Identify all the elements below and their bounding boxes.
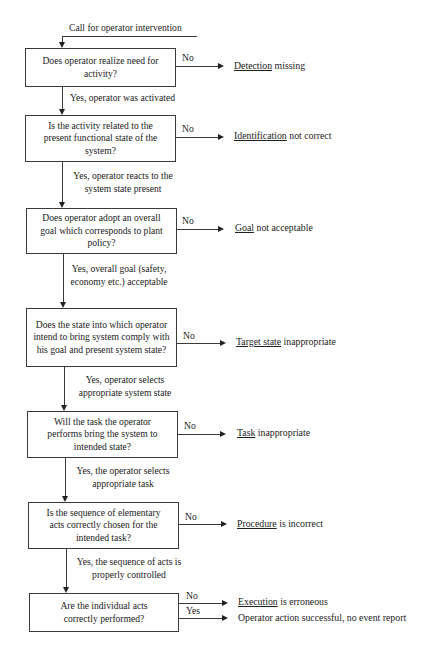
no-label: No xyxy=(182,215,194,228)
decision-box-target-state: Does the state into which operator inten… xyxy=(26,308,177,367)
no-connector xyxy=(179,603,222,604)
yes-label: Yes, operator reacts to the system state… xyxy=(68,170,178,195)
decision-box-detection: Does operator realize need for activity? xyxy=(25,48,176,87)
outcome-key: Identification xyxy=(234,130,287,141)
yes-label: Yes, operator was activated xyxy=(70,92,175,105)
outcome-detection: Detection missing xyxy=(234,60,305,72)
outcome-identification: Identification not correct xyxy=(234,130,331,142)
no-connector xyxy=(179,524,221,525)
arrow-right-icon xyxy=(218,63,224,69)
outcome-task: Task inappropriate xyxy=(237,427,310,439)
no-connector xyxy=(177,343,220,344)
no-label: No xyxy=(186,590,198,603)
outcome-key: Task xyxy=(237,427,255,438)
outcome-key: Procedure xyxy=(237,518,277,529)
yes-connector xyxy=(62,162,63,202)
decision-question: Does operator adopt an overall goal whic… xyxy=(34,212,170,250)
outcome-procedure: Procedure is incorrect xyxy=(237,518,323,530)
arrow-right-icon xyxy=(221,521,227,527)
decision-box-procedure: Is the sequence of elementary acts corre… xyxy=(28,502,179,549)
outcome-rest: not acceptable xyxy=(254,222,313,233)
outcome-key: Goal xyxy=(235,222,254,233)
yes-connector xyxy=(179,618,222,619)
decision-question: Will the task the operator performs brin… xyxy=(37,416,169,454)
start-label: Call for operator intervention xyxy=(69,22,182,35)
outcome-success: Operator action successful, no event rep… xyxy=(238,612,406,624)
no-label: No xyxy=(184,420,196,433)
decision-box-identification: Is the activity related to the present f… xyxy=(25,115,176,162)
outcome-rest: missing xyxy=(272,60,305,71)
outcome-rest: not correct xyxy=(287,130,332,141)
arrow-right-icon xyxy=(218,134,224,140)
outcome-target-state: Target state inappropriate xyxy=(236,336,336,348)
outcome-key: Execution xyxy=(238,596,278,607)
yes-label: Yes, the sequence of acts is properly co… xyxy=(72,556,186,581)
arrow-right-icon xyxy=(220,340,226,346)
outcome-goal: Goal not acceptable xyxy=(235,222,313,234)
arrow-right-icon xyxy=(220,431,226,437)
yes-label: Yes xyxy=(186,605,200,618)
no-connector xyxy=(176,66,218,67)
outcome-key: Detection xyxy=(234,60,272,71)
yes-connector xyxy=(66,549,67,587)
no-label: No xyxy=(185,511,197,524)
outcome-rest: is erroneous xyxy=(278,596,328,607)
outcome-rest: inappropriate xyxy=(281,336,336,347)
decision-question: Is the activity related to the present f… xyxy=(39,120,163,158)
arrow-right-icon xyxy=(222,600,228,606)
no-label: No xyxy=(183,330,195,343)
outcome-rest: is incorrect xyxy=(277,518,323,529)
decision-question: Are the individual acts correctly perfor… xyxy=(54,600,154,625)
arrow-right-icon xyxy=(222,615,228,621)
arrow-right-icon xyxy=(218,226,224,232)
yes-connector xyxy=(65,458,66,496)
decision-box-task: Will the task the operator performs brin… xyxy=(27,411,178,458)
start-connector xyxy=(62,36,197,37)
decision-question: Does operator realize need for activity? xyxy=(42,55,160,80)
no-connector xyxy=(176,137,218,138)
decision-question: Is the sequence of elementary acts corre… xyxy=(39,507,169,545)
yes-connector xyxy=(62,87,63,109)
no-label: No xyxy=(182,123,194,136)
yes-connector xyxy=(63,254,64,302)
yes-connector xyxy=(64,367,65,405)
decision-question: Does the state into which operator inten… xyxy=(33,319,170,357)
decision-box-execution: Are the individual acts correctly perfor… xyxy=(29,593,179,632)
decision-box-goal: Does operator adopt an overall goal whic… xyxy=(26,208,177,254)
no-connector xyxy=(178,434,220,435)
outcome-execution: Execution is erroneous xyxy=(238,596,328,608)
outcome-key: Target state xyxy=(236,336,281,347)
no-label: No xyxy=(182,52,194,65)
yes-label: Yes, overall goal (safety, economy etc.)… xyxy=(70,263,168,288)
yes-label: Yes, operator selects appropriate system… xyxy=(70,374,180,399)
no-connector xyxy=(177,229,218,230)
outcome-rest: inappropriate xyxy=(255,427,310,438)
yes-label: Yes, the operator selects appropriate ta… xyxy=(70,465,176,490)
